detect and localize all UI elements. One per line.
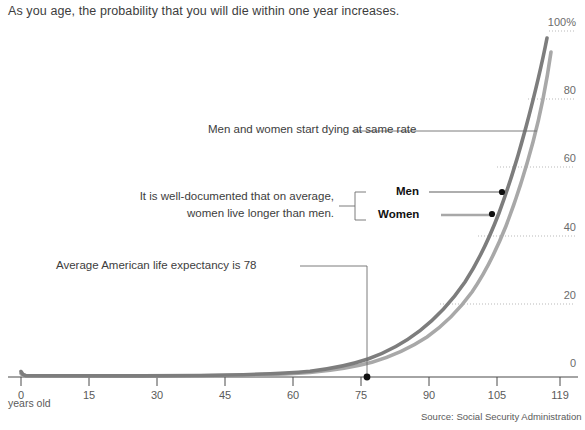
data-point-life-expectancy — [364, 374, 371, 381]
x-tick-label-105: 105 — [477, 389, 517, 401]
annotation-longevity-line2: women live longer than men. — [0, 207, 334, 219]
x-tick-label-119: 119 — [540, 389, 580, 401]
annotation-longevity-line1: It is well-documented that on average, — [0, 190, 334, 202]
data-point-women — [489, 211, 495, 217]
annotation-life-expectancy: Average American life expectancy is 78 — [56, 259, 257, 271]
y-tick-label-0: 0 — [528, 357, 576, 369]
leader-men — [429, 189, 505, 195]
y-tick-label-60: 60 — [528, 152, 576, 164]
leader-women — [441, 211, 495, 217]
x-axis-caption: years old — [8, 397, 51, 409]
annotation-crossing: Men and women start dying at same rate — [208, 123, 416, 135]
x-tick-label-90: 90 — [409, 389, 449, 401]
y-tick-label-80: 80 — [528, 84, 576, 96]
chart-root: As you age, the probability that you wil… — [0, 0, 585, 430]
x-tick-label-15: 15 — [69, 389, 109, 401]
series-label-men: Men — [396, 185, 419, 197]
gridlines — [440, 31, 575, 304]
x-axis — [8, 377, 578, 386]
data-point-men — [499, 189, 505, 195]
y-tick-label-100: 100% — [528, 16, 576, 28]
series-label-women: Women — [378, 208, 419, 220]
source-attribution: Source: Social Security Administration — [421, 411, 582, 422]
y-tick-label-20: 20 — [528, 289, 576, 301]
x-tick-label-75: 75 — [341, 389, 381, 401]
x-tick-label-45: 45 — [205, 389, 245, 401]
y-tick-label-40: 40 — [528, 221, 576, 233]
x-tick-label-30: 30 — [137, 389, 177, 401]
x-tick-label-60: 60 — [273, 389, 313, 401]
leader-bracket-longevity — [339, 192, 366, 220]
